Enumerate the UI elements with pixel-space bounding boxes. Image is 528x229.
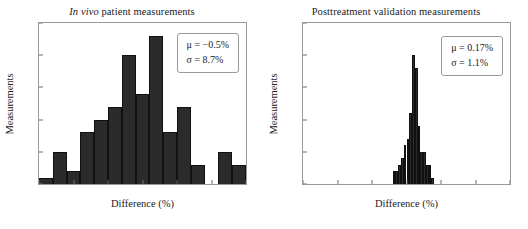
page-title-right: Posttreatment validation measurements [264, 6, 528, 17]
histogram-bar [136, 94, 150, 184]
histogram-bar [431, 178, 434, 184]
y-tick-mark [39, 119, 43, 120]
x-tick-label: −5 [367, 184, 377, 185]
histogram-bar [108, 107, 122, 184]
stat-sigma-right: σ = 1.1% [451, 56, 493, 71]
x-tick-mark [108, 180, 109, 184]
y-tick-mark [39, 23, 43, 24]
histogram-bar [53, 152, 67, 184]
stats-box-left: μ = −0.5% σ = 8.7% [177, 33, 239, 73]
histogram-bar [177, 107, 191, 184]
histogram-bar [122, 55, 136, 184]
histogram-bar [80, 132, 94, 184]
x-tick-label: 10 [207, 184, 217, 185]
stat-sigma-left: σ = 8.7% [187, 53, 229, 68]
x-tick-label: −5 [103, 184, 113, 185]
x-tick-label: 10 [471, 184, 481, 185]
x-tick-mark [177, 180, 178, 184]
histogram-bar [163, 132, 177, 184]
y-tick-mark [303, 55, 307, 56]
y-tick-mark [39, 87, 43, 88]
stats-box-right: μ = 0.17% σ = 1.1% [441, 36, 503, 76]
x-tick-mark [337, 180, 338, 184]
histogram-bar [232, 165, 246, 184]
plot-area-right: 0510152025 −15−10−5051015 μ = 0.17% σ = … [302, 22, 511, 185]
y-tick-mark [303, 23, 307, 24]
histogram-bar [149, 36, 163, 184]
x-tick-mark [39, 180, 40, 184]
histogram-bar [218, 152, 232, 184]
y-tick-mark [303, 151, 307, 152]
x-tick-label: 15 [505, 184, 511, 185]
y-tick-mark [303, 87, 307, 88]
y-axis-label-right: Measurements [268, 73, 279, 134]
x-tick-label: 0 [404, 184, 409, 185]
histogram-figure: In vivo patient measurements Measurement… [0, 0, 528, 229]
in-vivo-panel: In vivo patient measurements Measurement… [0, 0, 264, 229]
y-tick-mark [39, 151, 43, 152]
x-tick-label: 5 [439, 184, 444, 185]
x-tick-mark [441, 180, 442, 184]
x-tick-label: −10 [330, 184, 345, 185]
x-tick-label: −15 [302, 184, 310, 185]
histogram-bar [191, 165, 205, 184]
stat-mu-left: μ = −0.5% [187, 38, 229, 53]
y-axis-label-left: Measurements [4, 73, 15, 134]
x-tick-mark [406, 180, 407, 184]
x-tick-label: 5 [175, 184, 180, 185]
title-italic-left: In vivo [69, 6, 99, 17]
x-tick-mark [372, 180, 373, 184]
x-tick-label: −15 [38, 184, 46, 185]
title-rest-right: Posttreatment validation measurements [312, 6, 481, 17]
x-tick-label: −10 [66, 184, 81, 185]
x-tick-mark [246, 180, 247, 184]
histogram-bar [94, 120, 108, 184]
x-tick-mark [73, 180, 74, 184]
x-axis-label-left: Difference (%) [38, 198, 247, 209]
page-title-left: In vivo patient measurements [0, 6, 264, 17]
x-tick-mark [510, 180, 511, 184]
y-axis-label-holder-right: Measurements [275, 22, 289, 185]
x-tick-mark [475, 180, 476, 184]
posttreatment-panel: Posttreatment validation measurements Me… [264, 0, 528, 229]
x-tick-label: 0 [140, 184, 145, 185]
y-tick-mark [303, 119, 307, 120]
x-tick-mark [142, 180, 143, 184]
x-tick-mark [211, 180, 212, 184]
y-tick-mark [39, 55, 43, 56]
x-tick-mark [303, 180, 304, 184]
x-axis-label-right: Difference (%) [302, 198, 511, 209]
x-tick-label: 15 [241, 184, 247, 185]
stat-mu-right: μ = 0.17% [451, 41, 493, 56]
title-rest-left: patient measurements [99, 6, 195, 17]
plot-area-left: 0510152025 −15−10−5051015 μ = −0.5% σ = … [38, 22, 247, 185]
y-axis-label-holder-left: Measurements [11, 22, 25, 185]
